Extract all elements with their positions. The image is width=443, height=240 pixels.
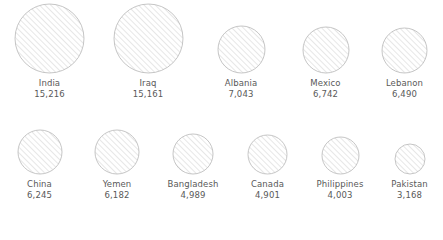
bubble-value: 6,182 [105,190,130,201]
bubble-item[interactable]: Lebanon6,490 [366,0,443,100]
bubble-circle [93,128,141,176]
bubble-circle [13,2,86,75]
bubble-circle-area [376,126,443,176]
bubble-text: Bangladesh4,989 [168,179,219,201]
bubble-circle-area [366,0,443,75]
bubble-label: China [27,179,52,190]
bubble-circle-area [285,0,366,75]
bubble-item[interactable]: Albania7,043 [197,0,285,100]
bubble-row-1: India15,216Iraq15,161Albania7,043Mexico6… [0,0,443,126]
bubble-item[interactable]: Bangladesh4,989 [155,126,231,201]
bubble-label: Iraq [139,78,156,89]
bubble-circle [246,133,289,176]
bubble-circle [393,142,427,176]
bubble-circle [301,25,351,75]
bubble-text: Canada4,901 [251,179,284,201]
bubble-value: 6,742 [313,89,338,100]
bubble-value: 4,003 [328,190,353,201]
bubble-item[interactable]: Canada4,901 [231,126,304,201]
bubble-row-2: China6,245Yemen6,182Bangladesh4,989Canad… [0,126,443,240]
bubble-text: Iraq15,161 [133,78,163,100]
bubble-label: Lebanon [386,78,423,89]
bubble-text: China6,245 [27,179,52,201]
bubble-item[interactable]: Yemen6,182 [79,126,155,201]
bubble-circle-area [79,126,155,176]
bubble-circle [16,128,64,176]
bubble-item[interactable]: China6,245 [0,126,79,201]
bubble-text: Philippines4,003 [317,179,364,201]
bubble-item[interactable]: Pakistan3,168 [376,126,443,201]
bubble-circle-area [231,126,304,176]
bubble-value: 7,043 [229,89,254,100]
bubble-label: Yemen [103,179,132,190]
bubble-value: 3,168 [397,190,422,201]
bubble-label: Bangladesh [168,179,219,190]
bubble-value: 4,901 [255,190,280,201]
bubble-value: 15,216 [34,89,64,100]
bubble-item[interactable]: Iraq15,161 [99,0,197,100]
bubble-circle [380,26,429,75]
bubble-label: Canada [251,179,284,190]
bubble-label: Philippines [317,179,364,190]
bubble-label: Albania [225,78,257,89]
bubble-text: Lebanon6,490 [386,78,423,100]
bubble-text: Pakistan3,168 [391,179,427,201]
bubble-text: Mexico6,742 [310,78,340,100]
bubble-value: 4,989 [181,190,206,201]
bubble-circle [112,2,185,75]
bubble-chart: India15,216Iraq15,161Albania7,043Mexico6… [0,0,443,240]
bubble-text: India15,216 [34,78,64,100]
bubble-item[interactable]: Mexico6,742 [285,0,366,100]
bubble-circle-area [99,0,197,75]
bubble-label: India [39,78,60,89]
bubble-circle [320,135,361,176]
bubble-value: 15,161 [133,89,163,100]
bubble-text: Yemen6,182 [103,179,132,201]
bubble-circle-area [0,0,99,75]
bubble-circle-area [197,0,285,75]
bubble-circle-area [155,126,231,176]
bubble-label: Pakistan [391,179,427,190]
bubble-value: 6,245 [27,190,52,201]
bubble-circle [216,24,267,75]
bubble-circle [171,132,215,176]
bubble-circle-area [304,126,376,176]
bubble-text: Albania7,043 [225,78,257,100]
bubble-item[interactable]: Philippines4,003 [304,126,376,201]
bubble-item[interactable]: India15,216 [0,0,99,100]
bubble-circle-area [0,126,79,176]
bubble-label: Mexico [310,78,340,89]
bubble-value: 6,490 [392,89,417,100]
